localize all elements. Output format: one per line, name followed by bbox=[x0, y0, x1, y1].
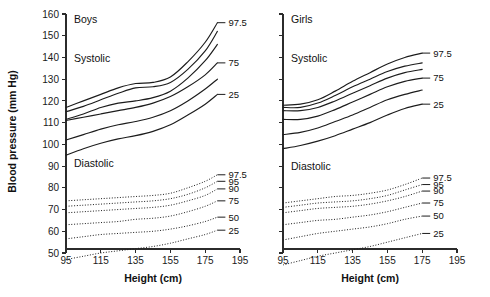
x-axis-title-girls: Height (cm) bbox=[341, 272, 399, 284]
curve-boys-diastolic-p75 bbox=[66, 201, 217, 225]
xtick-label-135: 135 bbox=[344, 255, 361, 266]
ytick-label-150: 150 bbox=[42, 30, 59, 41]
curve-label-boys-diastolic-p90: 90 bbox=[228, 183, 239, 194]
curve-label-boys-systolic-p75: 75 bbox=[228, 57, 239, 68]
curve-boys-diastolic-p97.5 bbox=[66, 175, 217, 201]
curve-label-girls-diastolic-p75: 75 bbox=[433, 197, 444, 208]
curve-label-boys-systolic-p97.5: 97.5 bbox=[228, 17, 247, 28]
curve-label-boys-diastolic-p50: 50 bbox=[228, 212, 239, 223]
xtick-label-155: 155 bbox=[162, 255, 179, 266]
curve-boys-systolic-p25 bbox=[66, 94, 217, 155]
blood-pressure-chart-figure: 5060708090100110120130140150160951151351… bbox=[0, 0, 490, 297]
panel-title-girls: Girls bbox=[291, 13, 313, 25]
curve-label-boys-systolic-p25: 25 bbox=[228, 89, 239, 100]
ytick-label-80: 80 bbox=[48, 182, 60, 193]
curve-label-girls-systolic-p25: 25 bbox=[433, 99, 444, 110]
curve-girls-systolic-p90 bbox=[283, 69, 422, 111]
ytick-label-130: 130 bbox=[42, 74, 59, 85]
xtick-label-95: 95 bbox=[60, 255, 72, 266]
curve-girls-diastolic-p97.5 bbox=[283, 178, 422, 203]
group-label-boys-systolic: Systolic bbox=[74, 52, 110, 64]
curve-label-girls-systolic-p97.5: 97.5 bbox=[433, 48, 452, 59]
ytick-label-100: 100 bbox=[42, 139, 59, 150]
ytick-label-60: 60 bbox=[48, 226, 60, 237]
ytick-label-70: 70 bbox=[48, 204, 60, 215]
ytick-label-120: 120 bbox=[42, 96, 59, 107]
xtick-label-195: 195 bbox=[232, 255, 249, 266]
curve-label-girls-diastolic-p90: 90 bbox=[433, 185, 444, 196]
curve-girls-systolic-p75 bbox=[283, 78, 422, 120]
curve-girls-systolic-p50 bbox=[283, 90, 422, 135]
x-axis-title-boys: Height (cm) bbox=[124, 272, 182, 284]
ytick-label-110: 110 bbox=[43, 117, 59, 128]
xtick-label-155: 155 bbox=[379, 255, 396, 266]
ytick-label-50: 50 bbox=[48, 248, 60, 259]
curve-girls-systolic-p95 bbox=[283, 63, 422, 108]
curve-girls-diastolic-p90 bbox=[283, 191, 422, 213]
curve-boys-systolic-p50 bbox=[66, 79, 217, 140]
group-label-boys-diastolic: Diastolic bbox=[74, 157, 114, 169]
curve-girls-diastolic-p95 bbox=[283, 185, 422, 208]
curve-girls-diastolic-p75 bbox=[283, 203, 422, 225]
curve-label-girls-systolic-p75: 75 bbox=[433, 72, 444, 83]
chart-svg: 5060708090100110120130140150160951151351… bbox=[0, 0, 490, 297]
ytick-label-140: 140 bbox=[42, 52, 59, 63]
xtick-label-175: 175 bbox=[197, 255, 214, 266]
curve-label-girls-diastolic-p25: 25 bbox=[433, 228, 444, 239]
curve-label-boys-diastolic-p75: 75 bbox=[228, 195, 239, 206]
curve-label-girls-diastolic-p50: 50 bbox=[433, 210, 444, 221]
axis-frame-girls bbox=[283, 14, 457, 249]
xtick-label-195: 195 bbox=[449, 255, 466, 266]
curve-girls-diastolic-p50 bbox=[283, 216, 422, 240]
y-axis-title: Blood pressure (mm Hg) bbox=[6, 70, 18, 193]
curve-boys-systolic-p97.5 bbox=[66, 23, 217, 108]
xtick-label-115: 115 bbox=[93, 255, 109, 266]
ytick-label-90: 90 bbox=[48, 161, 60, 172]
group-label-girls-diastolic: Diastolic bbox=[291, 160, 331, 172]
xtick-label-175: 175 bbox=[414, 255, 431, 266]
group-label-girls-systolic: Systolic bbox=[291, 52, 327, 64]
xtick-label-135: 135 bbox=[127, 255, 144, 266]
xtick-label-95: 95 bbox=[277, 255, 289, 266]
curve-label-boys-diastolic-p25: 25 bbox=[228, 225, 239, 236]
curve-boys-diastolic-p50 bbox=[66, 217, 217, 239]
ytick-label-160: 160 bbox=[42, 9, 59, 20]
panel-title-boys: Boys bbox=[74, 13, 97, 25]
